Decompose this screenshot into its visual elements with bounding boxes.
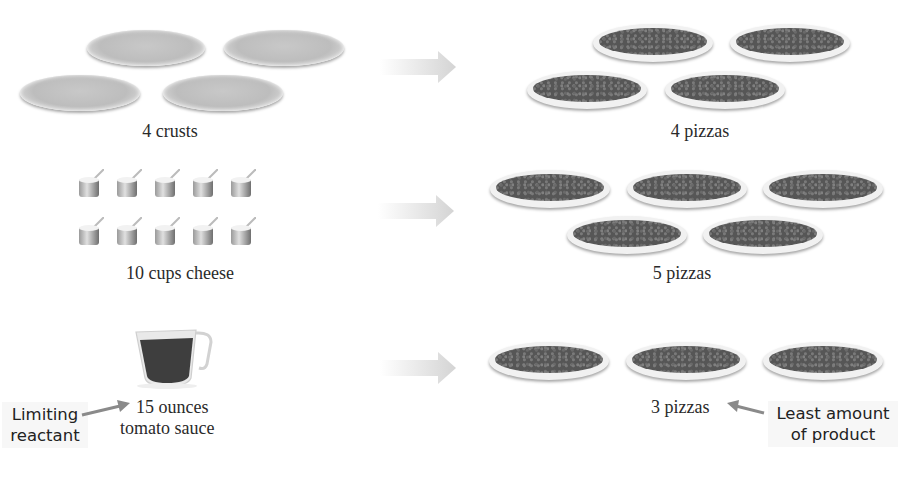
pizza-icon (527, 71, 647, 109)
cheese-cup-icon (116, 169, 142, 199)
pizza-icon (593, 24, 713, 62)
cheese-cup-icon (192, 217, 218, 247)
cheese-cup-icon (154, 217, 180, 247)
crust-icon (163, 75, 283, 111)
callout-arrow-icon (726, 398, 766, 418)
pizza-icon (763, 342, 883, 380)
pizza-icon (627, 170, 747, 208)
measuring-cup-icon (133, 326, 221, 390)
pizza-icon (703, 216, 823, 254)
callout-least-line2: of product (774, 424, 892, 445)
arrow-icon (378, 195, 458, 227)
pizza-icon (763, 170, 883, 208)
callout-arrow-icon (80, 398, 132, 420)
cheese-cup-icon (154, 169, 180, 199)
crust-icon (224, 30, 344, 66)
cheese-cup-icon (78, 217, 104, 247)
cheese-cup-icon (230, 217, 256, 247)
reactant-label-sauce-line2: tomato sauce (120, 418, 214, 438)
cheese-cup-icon (78, 169, 104, 199)
pizza-icon (730, 24, 850, 62)
product-label-5-pizzas: 5 pizzas (622, 263, 742, 283)
reactant-label-cheese: 10 cups cheese (95, 263, 265, 283)
cheese-cups-grid (78, 165, 278, 265)
reactant-label-crusts: 4 crusts (110, 121, 230, 141)
pizza-icon (490, 170, 610, 208)
callout-least-line1: Least amount (774, 403, 892, 424)
pizza-icon (567, 216, 687, 254)
arrow-icon (380, 51, 460, 83)
crust-icon (20, 75, 140, 111)
pizza-icon (626, 342, 746, 380)
callout-least-product: Least amount of product (768, 401, 898, 447)
arrow-icon (380, 352, 460, 384)
cheese-cup-icon (116, 217, 142, 247)
cheese-cup-icon (230, 169, 256, 199)
reactant-label-sauce-line1: 15 ounces (136, 397, 208, 417)
callout-limiting-reactant: Limiting reactant (2, 402, 88, 448)
product-label-3-pizzas: 3 pizzas (651, 397, 709, 417)
crust-icon (87, 30, 205, 66)
pizza-icon (665, 71, 785, 109)
cheese-cup-icon (192, 169, 218, 199)
product-label-4-pizzas: 4 pizzas (640, 121, 760, 141)
callout-limiting-line2: reactant (8, 425, 82, 446)
callout-limiting-line1: Limiting (8, 404, 82, 425)
pizza-icon (489, 342, 609, 380)
